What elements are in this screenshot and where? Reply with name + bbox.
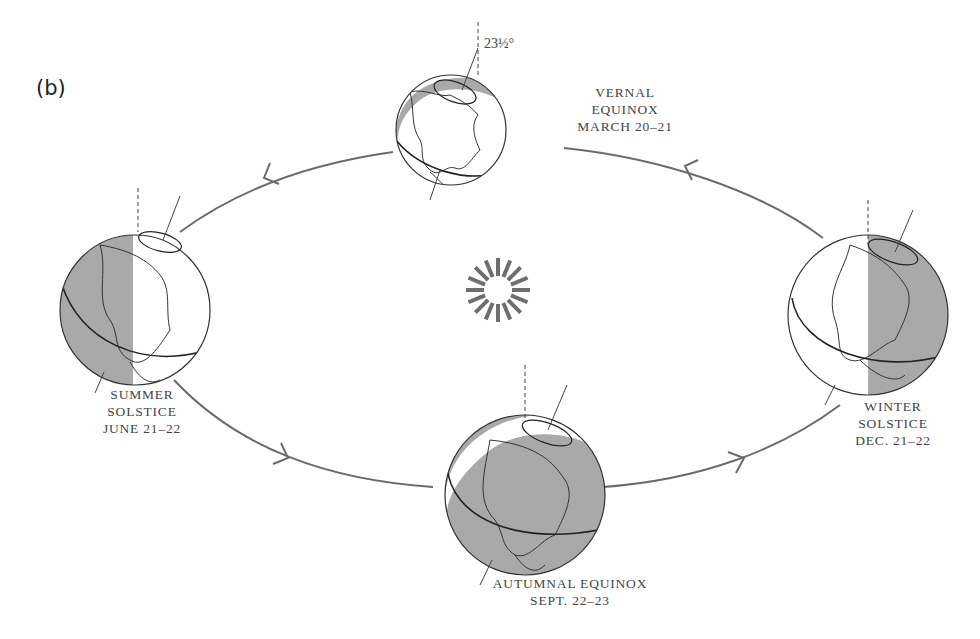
caption-winter-solstice: WINTER SOLSTICE DEC. 21–22 [838,398,948,449]
panel-label: (b) [36,76,66,100]
arrow-left-icon [685,160,698,180]
tilt-angle-label: 23½° [484,36,514,52]
caption-vernal-equinox: VERNAL EQUINOX MARCH 20–21 [560,84,690,135]
sun-icon [466,258,530,322]
caption-summer-solstice: SUMMER SOLSTICE JUNE 21–22 [82,386,202,437]
globe-autumnal-equinox [445,365,605,585]
diagram-canvas [0,0,980,639]
seasons-diagram: (b) 23½° VERNAL EQUINOX MARCH 20–21 SUMM… [0,0,980,639]
globe-summer-solstice [55,188,210,393]
caption-autumnal-equinox: AUTUMNAL EQUINOX SEPT. 22–23 [480,575,660,609]
